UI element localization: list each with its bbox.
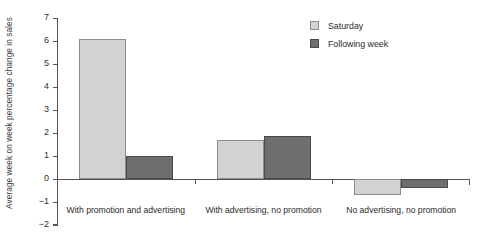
y-axis-tick: 1 [53, 156, 58, 157]
bar [401, 179, 448, 188]
y-axis-tick-label: 1 [44, 150, 49, 160]
bar [264, 136, 311, 179]
y-axis-tick: −2 [53, 225, 58, 226]
y-axis-tick: 4 [53, 87, 58, 88]
x-axis-tick [332, 179, 333, 184]
y-axis-tick-label: 0 [44, 173, 49, 183]
y-axis-tick: 2 [53, 133, 58, 134]
y-axis-tick-label: 2 [44, 127, 49, 137]
legend-swatch-following-week [310, 39, 319, 48]
legend-label-following-week: Following week [328, 39, 388, 49]
y-axis-tick-label: 7 [44, 12, 49, 22]
bar [79, 39, 126, 179]
bar [217, 140, 264, 179]
y-axis-tick-label: −1 [39, 196, 49, 206]
y-axis-tick: −1 [53, 202, 58, 203]
y-axis-tick-label: 3 [44, 104, 49, 114]
x-axis-tick [195, 179, 196, 184]
y-axis-line [57, 18, 58, 225]
chart-legend: Saturday Following week [310, 18, 450, 54]
y-axis-tick: 3 [53, 110, 58, 111]
bar [126, 156, 173, 179]
y-axis-tick: 5 [53, 64, 58, 65]
x-axis-category-label: With promotion and advertising [67, 205, 185, 215]
y-axis-tick-label: 6 [44, 35, 49, 45]
y-axis-tick: 6 [53, 41, 58, 42]
y-axis-tick-label: 5 [44, 58, 49, 68]
legend-label-saturday: Saturday [328, 21, 363, 31]
y-axis-tick: 0 [53, 179, 58, 180]
legend-item: Following week [310, 36, 450, 51]
x-axis-category-label: No advertising, no promotion [346, 205, 456, 215]
y-axis-title: Average week on week percentage change i… [0, 0, 18, 232]
legend-item: Saturday [310, 18, 450, 33]
bar [354, 179, 401, 195]
y-axis-tick-label: 4 [44, 81, 49, 91]
y-axis-tick-label: −2 [39, 219, 49, 229]
y-axis-tick: 7 [53, 18, 58, 19]
bar-chart: Average week on week percentage change i… [0, 0, 487, 238]
legend-swatch-saturday [310, 21, 319, 30]
x-axis-right-cap [469, 179, 470, 185]
x-axis-category-label: With advertising, no promotion [205, 205, 321, 215]
